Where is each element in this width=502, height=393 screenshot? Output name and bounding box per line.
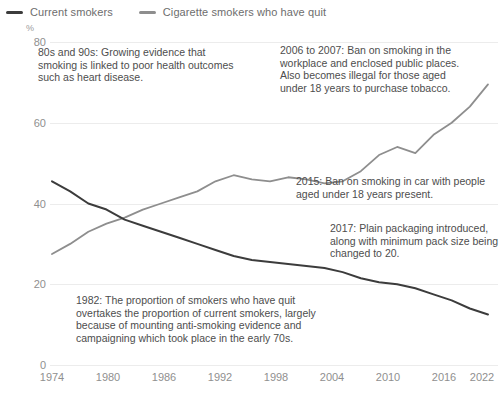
annotation-2006-2007-ban: 2006 to 2007: Ban on smoking in the work… [280, 44, 470, 94]
annotation-1982-crossover: 1982: The proportion of smokers who have… [76, 294, 326, 344]
annotation-2017-plain-packaging: 2017: Plain packaging introduced, along … [330, 222, 502, 260]
annotation-2015-car-ban: 2015: Ban on smoking in car with people … [296, 175, 502, 200]
annotation-80s-90s-evidence: 80s and 90s: Growing evidence that smoki… [38, 46, 238, 84]
smoking-trends-chart: Current smokers Cigarette smokers who ha… [0, 0, 502, 393]
